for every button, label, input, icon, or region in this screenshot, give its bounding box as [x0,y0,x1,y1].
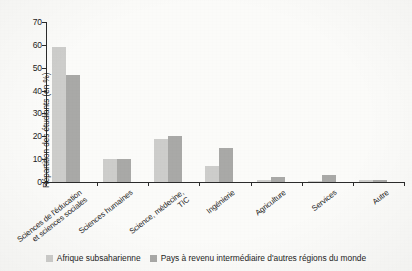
y-tick-label: 60 [20,41,42,49]
x-tick-mark [199,182,200,186]
x-category-label-line1: Agriculture [254,188,288,217]
x-category-label-line1: Services [310,188,338,213]
chart-legend: Afrique subsahariennePays à revenu inter… [0,253,412,263]
bar-group [148,22,199,182]
y-tick-label: 30 [20,109,42,117]
y-tick-label: 20 [20,132,42,140]
bar [66,75,80,182]
x-tick-mark [46,182,47,186]
x-axis-line [46,182,405,183]
x-tick-mark [302,182,303,186]
bar [322,175,336,182]
legend-item: Afrique subsaharienne [46,253,141,263]
y-tick-label: 50 [20,64,42,72]
legend-label: Afrique subsaharienne [57,253,141,263]
bar-group [97,22,148,182]
bar-group [46,22,97,182]
x-category-label-line1: Sciences humaines [77,188,134,236]
bar [373,180,387,182]
x-tick-mark [353,182,354,186]
bar [205,166,219,182]
legend-item: Pays à revenu intermédiaire d'autres rég… [150,253,367,263]
bar [219,148,233,182]
y-tick-label: 0 [20,178,42,186]
y-tick-label: 40 [20,87,42,95]
bar-group [353,22,404,182]
y-tick-label: 70 [20,18,42,26]
plot-area: Répartition des étudiants (en %) 0102030… [46,22,404,182]
bar [154,139,168,182]
chart-page: Répartition des étudiants (en %) 0102030… [0,0,412,271]
x-tick-mark [404,182,405,186]
y-tick-label: 10 [20,155,42,163]
legend-swatch [46,255,53,262]
x-category-label-line1: Ingénierie [205,188,237,216]
x-tick-mark [251,182,252,186]
bar [271,177,285,182]
bar-group [302,22,353,182]
bar [117,159,131,182]
bar [103,159,117,182]
x-tick-mark [148,182,149,186]
legend-swatch [150,255,157,262]
bar [52,47,66,182]
bar [168,136,182,182]
bar [359,180,373,182]
bar [308,181,322,182]
bar-group [199,22,250,182]
bar [257,180,271,182]
x-tick-mark [97,182,98,186]
x-category-label-line1: Autre [370,188,390,206]
bar-group [251,22,302,182]
legend-label: Pays à revenu intermédiaire d'autres rég… [161,253,367,263]
